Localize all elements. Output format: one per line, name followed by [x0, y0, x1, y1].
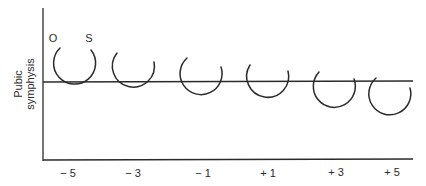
station-label: + 3 [328, 166, 344, 178]
station-diagram: Pubic symphysis O S − 5 − 3 − 1 + 1 + 3 … [0, 0, 426, 186]
y-axis-label-line1: Pubic [12, 70, 24, 98]
station-arc-plus3 [313, 72, 355, 107]
station-label: + 1 [260, 167, 276, 179]
station-label: − 1 [195, 167, 211, 179]
marker-s: S [85, 32, 92, 44]
station-label: + 5 [384, 166, 400, 178]
station-arc-minus5 [54, 48, 96, 84]
station-label: − 3 [125, 167, 141, 179]
marker-o: O [49, 32, 58, 44]
x-axis [43, 159, 413, 160]
pubic-symphysis-reference-line [43, 81, 413, 82]
station-arc-plus5 [369, 78, 411, 115]
station-arc-minus1 [180, 58, 222, 95]
station-label: − 5 [60, 167, 76, 179]
y-axis-label-line2: symphysis [24, 58, 36, 110]
